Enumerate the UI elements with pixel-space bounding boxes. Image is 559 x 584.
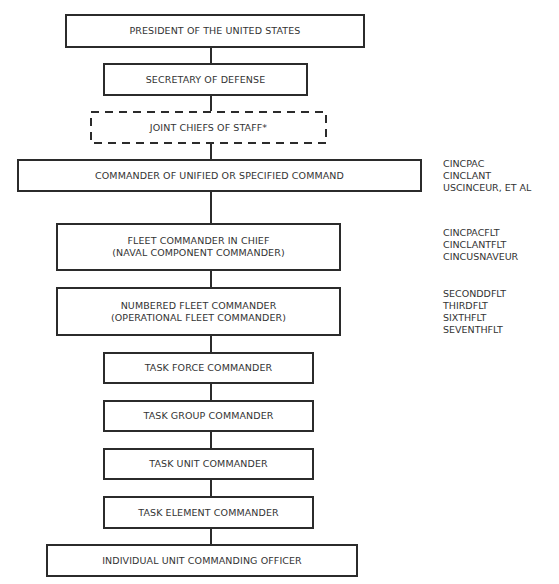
- node-label: INDIVIDUAL UNIT COMMANDING OFFICER: [102, 555, 302, 567]
- connector-numbered-fleet-task-force: [210, 335, 212, 352]
- side-label-line: CINCPAC: [443, 158, 531, 170]
- side-label-line: SECONDDFLT: [443, 288, 506, 300]
- connector-president-secdef: [210, 47, 212, 63]
- node-label: FLEET COMMANDER IN CHIEF: [127, 235, 269, 247]
- node-label: TASK FORCE COMMANDER: [145, 362, 273, 374]
- node-label: JOINT CHIEFS OF STAFF*: [150, 122, 267, 134]
- node-label: TASK UNIT COMMANDER: [149, 458, 267, 470]
- connector-jcs-unified: [210, 143, 212, 159]
- node-secretary-of-defense: SECRETARY OF DEFENSE: [103, 63, 308, 96]
- node-sublabel: (NAVAL COMPONENT COMMANDER): [112, 247, 284, 259]
- side-label-line: CINCUSNAVEUR: [443, 251, 518, 263]
- side-label-line: CINCPACFLT: [443, 227, 518, 239]
- node-president: PRESIDENT OF THE UNITED STATES: [65, 14, 365, 48]
- connector-task-group-task-unit: [210, 431, 212, 448]
- node-joint-chiefs-of-staff: JOINT CHIEFS OF STAFF*: [90, 111, 327, 144]
- node-label: SECRETARY OF DEFENSE: [146, 74, 266, 86]
- side-label-fleet-commanders: CINCPACFLT CINCLANTFLT CINCUSNAVEUR: [443, 227, 518, 263]
- side-label-numbered-fleets: SECONDDFLT THIRDFLT SIXTHFLT SEVENTHFLT: [443, 288, 506, 336]
- chain-of-command-diagram: PRESIDENT OF THE UNITED STATES SECRETARY…: [0, 0, 559, 584]
- node-label: TASK ELEMENT COMMANDER: [138, 507, 279, 519]
- node-label: NUMBERED FLEET COMMANDER: [121, 300, 277, 312]
- connector-secdef-jcs: [210, 95, 212, 111]
- node-numbered-fleet-commander: NUMBERED FLEET COMMANDER (OPERATIONAL FL…: [56, 287, 341, 336]
- node-sublabel: (OPERATIONAL FLEET COMMANDER): [111, 312, 286, 324]
- node-label: TASK GROUP COMMANDER: [143, 410, 273, 422]
- side-label-line: SEVENTHFLT: [443, 324, 506, 336]
- connector-fleet-cinc-numbered-fleet: [210, 270, 212, 287]
- node-task-group-commander: TASK GROUP COMMANDER: [103, 400, 314, 432]
- node-task-element-commander: TASK ELEMENT COMMANDER: [103, 496, 314, 529]
- node-label: COMMANDER OF UNIFIED OR SPECIFIED COMMAN…: [95, 170, 344, 182]
- node-task-unit-commander: TASK UNIT COMMANDER: [103, 448, 314, 480]
- side-label-line: THIRDFLT: [443, 300, 506, 312]
- node-unified-command: COMMANDER OF UNIFIED OR SPECIFIED COMMAN…: [17, 159, 422, 192]
- side-label-unified-commands: CINCPAC CINCLANT USCINCEUR, ET AL: [443, 158, 531, 194]
- side-label-line: USCINCEUR, ET AL: [443, 182, 531, 194]
- connector-unified-fleet-cinc: [210, 191, 212, 223]
- connector-task-element-individual-unit: [210, 528, 212, 544]
- side-label-line: CINCLANT: [443, 170, 531, 182]
- node-task-force-commander: TASK FORCE COMMANDER: [103, 352, 314, 384]
- node-label: PRESIDENT OF THE UNITED STATES: [129, 25, 300, 37]
- node-individual-unit-commanding-officer: INDIVIDUAL UNIT COMMANDING OFFICER: [46, 544, 358, 577]
- side-label-line: SIXTHFLT: [443, 312, 506, 324]
- node-fleet-commander-in-chief: FLEET COMMANDER IN CHIEF (NAVAL COMPONEN…: [56, 223, 341, 271]
- connector-task-force-task-group: [210, 383, 212, 400]
- side-label-line: CINCLANTFLT: [443, 239, 518, 251]
- connector-task-unit-task-element: [210, 479, 212, 496]
